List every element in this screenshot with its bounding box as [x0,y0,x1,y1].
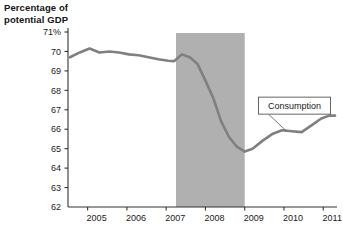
callout-label: Consumption [268,101,321,111]
chart-svg: 71%706968676665646362 200520062007200820… [0,0,343,231]
x-axis-ticks: 2005200620072008200920102011 [87,207,342,223]
y-tick-label: 69 [51,66,61,76]
y-tick-label: 71% [43,27,61,37]
x-tick-label: 2006 [126,213,146,223]
y-tick-label: 68 [51,86,61,96]
chart-container: Percentage of potential GDP 71%706968676… [0,0,343,231]
x-tick-label: 2007 [165,213,185,223]
x-tick-label: 2010 [283,213,303,223]
x-tick-label: 2005 [87,213,107,223]
y-axis-ticks: 71%706968676665646362 [43,27,68,212]
x-tick-label: 2008 [204,213,224,223]
x-tick-label: 2011 [323,213,342,223]
y-tick-label: 63 [51,183,61,193]
y-tick-label: 65 [51,144,61,154]
callout-leader-line [268,114,285,130]
shaded-regions-group [176,33,245,207]
y-tick-label: 64 [51,163,61,173]
x-tick-label: 2009 [244,213,264,223]
y-tick-label: 70 [51,47,61,57]
y-tick-label: 62 [51,202,61,212]
y-tick-label: 66 [51,124,61,134]
annotations-group: Consumption [258,97,330,130]
recession-band [176,33,245,207]
y-tick-label: 67 [51,105,61,115]
